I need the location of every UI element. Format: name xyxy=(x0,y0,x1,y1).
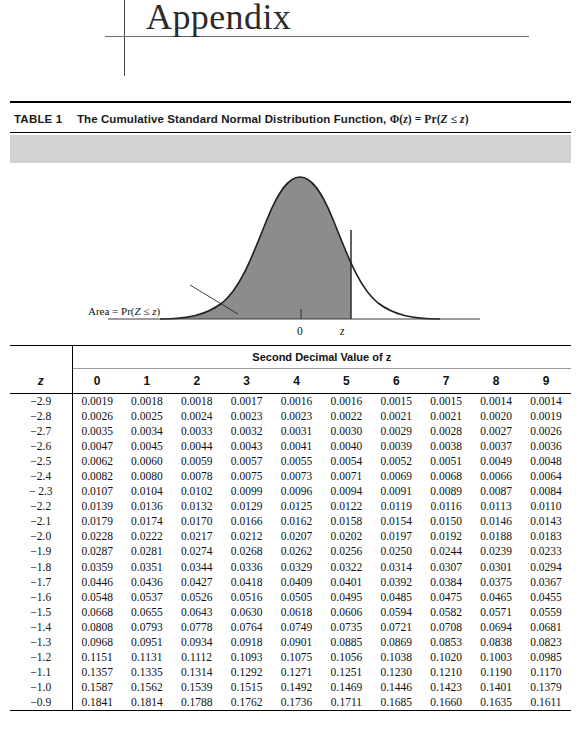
table-cell: 0.0045 xyxy=(122,439,172,454)
table-cell: 0.0029 xyxy=(371,424,421,439)
table-cell: 0.0351 xyxy=(122,560,172,575)
table-cell: 0.0107 xyxy=(72,484,122,499)
table-cell: 0.0041 xyxy=(272,439,322,454)
table-cell: 0.0314 xyxy=(371,560,421,575)
row-label-z: −1.7 xyxy=(10,575,72,590)
table-cell: 0.0268 xyxy=(222,544,272,559)
table-cell: 0.0708 xyxy=(421,620,471,635)
table-cell: 0.0139 xyxy=(72,499,122,514)
table-cell: 0.0174 xyxy=(122,514,172,529)
table-cell: 0.0548 xyxy=(72,590,122,605)
table-row: − 2.30.01070.01040.01020.00990.00960.009… xyxy=(10,484,571,499)
table-cell: 0.1020 xyxy=(421,650,471,665)
table-cell: 0.0233 xyxy=(521,544,571,559)
table-cell: 0.0409 xyxy=(272,575,322,590)
table-cell: 0.0294 xyxy=(521,560,571,575)
table-cell: 0.0021 xyxy=(421,409,471,424)
table-cell: 0.0048 xyxy=(521,454,571,469)
table-cell: 0.0968 xyxy=(72,635,122,650)
table-cell: 0.0301 xyxy=(471,560,521,575)
table-cell: 0.0367 xyxy=(521,575,571,590)
table-cell: 0.0222 xyxy=(122,529,172,544)
table-cell: 0.1093 xyxy=(222,650,272,665)
table-cell: 0.0021 xyxy=(371,409,421,424)
table-cell: 0.0322 xyxy=(321,560,371,575)
row-label-z: −2.0 xyxy=(10,529,72,544)
table-cell: 0.0119 xyxy=(371,499,421,514)
table-cell: 0.0030 xyxy=(321,424,371,439)
table-cell: 0.0057 xyxy=(222,454,272,469)
table-cell: 0.0188 xyxy=(471,529,521,544)
table-cell: 0.1515 xyxy=(222,680,272,695)
table-cell: 0.0808 xyxy=(72,620,122,635)
group-header-label: Second Decimal Value of z xyxy=(72,346,571,369)
table-cell: 0.1469 xyxy=(321,680,371,695)
table-cell: 0.1423 xyxy=(421,680,471,695)
table-row: −1.90.02870.02810.02740.02680.02620.0256… xyxy=(10,544,571,559)
table-cell: 0.0239 xyxy=(471,544,521,559)
table-cell: 0.1357 xyxy=(72,665,122,680)
column-header-6: 6 xyxy=(371,369,421,394)
table-cell: 0.0023 xyxy=(272,409,322,424)
table-caption-text: The Cumulative Standard Normal Distribut… xyxy=(77,113,469,125)
table-cell: 0.0934 xyxy=(172,635,222,650)
table-cell: 0.0202 xyxy=(321,529,371,544)
cumulative-normal-table: Second Decimal Value of z z 0 1 2 3 4 5 … xyxy=(10,345,571,710)
table-cell: 0.0655 xyxy=(122,605,172,620)
table-row: −2.10.01790.01740.01700.01660.01620.0158… xyxy=(10,514,571,529)
table-caption-formula: Φ(z) = Pr(Z ≤ z) xyxy=(390,113,469,125)
table-cell: 0.0495 xyxy=(321,590,371,605)
table-cell: 0.0039 xyxy=(371,439,421,454)
table-cell: 0.0028 xyxy=(421,424,471,439)
axis-tick-zero: 0 xyxy=(297,325,303,337)
table-cell: 0.0040 xyxy=(321,439,371,454)
area-annotation-label: Area = Pr(Z ≤ z) xyxy=(88,305,160,317)
table-cell: 0.0559 xyxy=(521,605,571,620)
table-row: −2.80.00260.00250.00240.00230.00230.0022… xyxy=(10,409,571,424)
table-cell: 0.0125 xyxy=(272,499,322,514)
table-cell: 0.0179 xyxy=(72,514,122,529)
table-cell: 0.0537 xyxy=(122,590,172,605)
table-cell: 0.0192 xyxy=(421,529,471,544)
table-cell: 0.0080 xyxy=(122,469,172,484)
table-cell: 0.0207 xyxy=(272,529,322,544)
table-cell: 0.0721 xyxy=(371,620,421,635)
table-cell: 0.0082 xyxy=(72,469,122,484)
table-row: −2.60.00470.00450.00440.00430.00410.0040… xyxy=(10,439,571,454)
table-row: −1.50.06680.06550.06430.06300.06180.0606… xyxy=(10,605,571,620)
row-label-z: −1.0 xyxy=(10,680,72,695)
row-label-z: −2.5 xyxy=(10,454,72,469)
table-cell: 0.0228 xyxy=(72,529,122,544)
table-cell: 0.0073 xyxy=(272,469,322,484)
table-cell: 0.0087 xyxy=(471,484,521,499)
table-cell: 0.0838 xyxy=(471,635,521,650)
table-number-label: TABLE 1 xyxy=(14,113,62,125)
column-header-0: 0 xyxy=(72,369,122,394)
row-label-z: −2.2 xyxy=(10,499,72,514)
table-cell: 0.0162 xyxy=(272,514,322,529)
table-cell: 0.0069 xyxy=(371,469,421,484)
table-cell: 0.0122 xyxy=(321,499,371,514)
row-label-z: −1.9 xyxy=(10,544,72,559)
table-cell: 0.0089 xyxy=(421,484,471,499)
table-cell: 0.0427 xyxy=(172,575,222,590)
table-cell: 0.0166 xyxy=(222,514,272,529)
table-cell: 0.0066 xyxy=(471,469,521,484)
table-cell: 0.1038 xyxy=(371,650,421,665)
table-cell: 0.0052 xyxy=(371,454,421,469)
table-cell: 0.0526 xyxy=(172,590,222,605)
table-cell: 0.0060 xyxy=(122,454,172,469)
table-cell: 0.0096 xyxy=(272,484,322,499)
row-label-z: −2.9 xyxy=(10,394,72,410)
table-cell: 0.0051 xyxy=(421,454,471,469)
table-cell: 0.1841 xyxy=(72,695,122,710)
table-row: −2.00.02280.02220.02170.02120.02070.0202… xyxy=(10,529,571,544)
table-row: −2.40.00820.00800.00780.00750.00730.0071… xyxy=(10,469,571,484)
table-cell: 0.1711 xyxy=(321,695,371,710)
page-title: Appendix xyxy=(146,0,291,38)
table-cell: 0.0465 xyxy=(471,590,521,605)
table-cell: 0.0024 xyxy=(172,409,222,424)
table-cell: 0.1762 xyxy=(222,695,272,710)
table-cell: 0.1635 xyxy=(471,695,521,710)
table-cell: 0.0183 xyxy=(521,529,571,544)
